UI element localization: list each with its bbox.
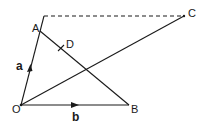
label-O: O (12, 103, 21, 115)
arrow-b-icon (71, 102, 79, 108)
label-B: B (131, 103, 138, 115)
label-vector-a: a (16, 59, 23, 73)
label-C: C (188, 7, 196, 19)
label-D: D (66, 38, 74, 50)
label-vector-b: b (72, 110, 79, 124)
vector-diagram: A D C O B a b (0, 0, 207, 130)
line-OC (21, 16, 184, 105)
line-AB (40, 31, 129, 105)
point-C (183, 15, 185, 17)
label-A: A (32, 22, 40, 34)
